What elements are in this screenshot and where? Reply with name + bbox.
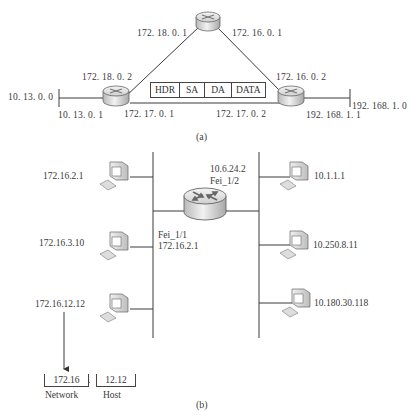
packet-field-hdr: HDR [151,83,180,97]
right-host-ip: 10.1.1.1 [314,171,345,181]
left-host-ip: 172.16.12.12 [35,299,85,309]
packet-field-data: DATA [232,83,265,97]
top-router-right-ip: 172. 16. 0. 1 [232,28,282,38]
computer-icon [100,232,128,260]
right-router-top-ip: 172. 16. 0. 2 [276,72,326,82]
figure-b-caption: (b) [196,399,208,410]
router-icon [278,86,304,106]
network-part-box: 172.16 [44,374,89,387]
left-host-ip: 172.16.2.1 [43,171,83,181]
router-icon [103,86,129,106]
diagram-canvas [0,0,416,419]
packet-field-sa: SA [180,83,205,97]
computer-icon [100,294,128,322]
host-label: Host [103,390,121,400]
router-icon [196,12,220,31]
address-separator: . [88,375,90,385]
computer-icon [100,162,128,190]
network-label: Network [45,390,78,400]
right-host-ip: 10.180.30.118 [314,298,368,308]
left-router-bottom-right-ip: 172. 17. 0. 1 [124,109,174,119]
router-left-interface-name: Fei_1/1 [158,230,187,240]
packet-diagram: HDR SA DA DATA [150,82,266,98]
left-host-ip: 172.16.3.10 [39,238,84,248]
right-host-ip: 10.250.8.11 [313,240,358,250]
top-router-left-ip: 172. 18. 0. 1 [137,28,187,38]
router-right-interface-name: Fei_1/2 [210,176,239,186]
left-router-top-ip: 172. 18. 0. 2 [82,72,132,82]
right-router-bottom-left-ip: 172. 17. 0. 2 [216,109,266,119]
left-router-bottom-left-ip: 10. 13. 0. 1 [58,110,103,120]
router-right-interface-ip: 10.6.24.2 [210,164,246,174]
router-left-interface-ip: 172.16.2.1 [158,241,198,251]
right-router-bottom-right-ip: 192. 168. 1. 1 [306,110,361,120]
figure-b-buses [64,152,292,369]
computer-icon [280,162,308,190]
figure-a-caption: (a) [196,131,207,142]
router-icon [184,188,226,220]
packet-field-da: DA [205,83,232,97]
host-part-box: 12.12 [96,374,136,387]
left-network-ip: 10. 13. 0. 0 [8,92,53,102]
